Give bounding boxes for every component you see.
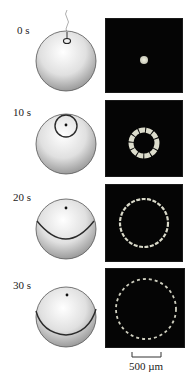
sperm-entry-point — [66, 294, 69, 297]
scale-bar-label: 500 µm — [129, 360, 163, 372]
time-label-0s: 0 s — [17, 24, 30, 36]
micropipette-icon — [66, 10, 69, 32]
sperm-entry-point — [65, 124, 68, 127]
egg-sphere-0s — [34, 6, 98, 96]
fluorescence-panel-0s — [105, 18, 183, 93]
fluorescence-panel-30s — [105, 268, 185, 348]
fluorescence-panel-10s — [105, 100, 183, 177]
time-label-10s: 10 s — [13, 106, 31, 118]
sperm-entry-icon — [64, 39, 71, 44]
scale-bar — [131, 351, 163, 359]
egg-sphere-10s — [34, 110, 98, 180]
egg-sphere-30s — [34, 283, 98, 353]
time-label-20s: 20 s — [13, 191, 31, 203]
sperm-entry-point — [65, 207, 68, 210]
fluorescence-panel-20s — [105, 184, 183, 262]
time-label-30s: 30 s — [13, 279, 31, 291]
egg-sphere-20s — [34, 195, 98, 265]
